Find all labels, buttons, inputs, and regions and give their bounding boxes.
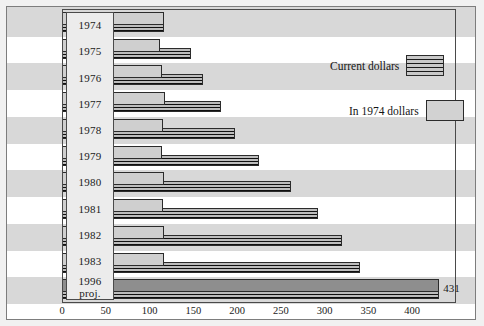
x-tick-300: 300 [317,305,333,316]
x-tick-50: 50 [101,305,112,316]
year-label-line1: 1976 [79,73,102,85]
data-label-431: 431 [443,282,460,294]
year-label-line1: 1980 [79,177,102,189]
year-label-1981: 1981 [67,196,113,222]
x-tick-100: 100 [142,305,158,316]
x-tick-350: 350 [361,305,377,316]
x-tick-200: 200 [229,305,245,316]
year-label-line1: 1979 [79,151,102,163]
year-label-1982: 1982 [67,222,113,248]
plot-area [62,9,456,303]
x-tick-250: 250 [273,305,289,316]
year-label-line1: 1975 [79,46,102,58]
year-label-line1: 1977 [79,99,102,111]
year-label-line1: 1981 [79,204,102,216]
year-label-1974: 1974 [67,13,113,39]
year-label-1979: 1979 [67,144,113,170]
year-label-1996: 1996proj. [67,275,113,301]
year-axis-column: 1974197519761977197819791980198119821983… [66,12,114,300]
year-label-1976: 1976 [67,65,113,91]
year-label-1975: 1975 [67,39,113,65]
year-label-1977: 1977 [67,92,113,118]
year-label-1980: 1980 [67,170,113,196]
year-label-1978: 1978 [67,118,113,144]
x-tick-400: 400 [404,305,420,316]
year-label-line1: 1978 [79,125,102,137]
year-label-line1: 1974 [79,20,102,32]
x-tick-150: 150 [185,305,201,316]
year-label-1983: 1983 [67,249,113,275]
year-label-line2: proj. [79,288,100,300]
x-tick-0: 0 [59,305,64,316]
year-label-line1: 1982 [79,230,102,242]
bar-in-1974-dollars-1996 proj. [62,279,439,292]
x-axis: 050100150200250300350400 [62,303,456,323]
chart-root: 1974197519761977197819791980198119821983… [0,0,484,326]
year-label-line1: 1983 [79,256,102,268]
